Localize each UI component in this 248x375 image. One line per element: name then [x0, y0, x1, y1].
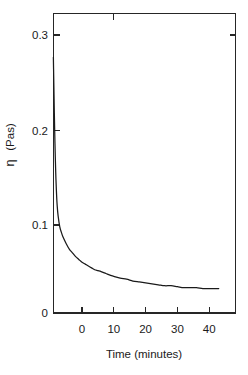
x-tick-label-40: 40 — [203, 323, 216, 335]
x-tick-label-10: 10 — [107, 323, 120, 335]
chart-background — [0, 0, 248, 375]
y-tick-label-0-2: 0.2 — [32, 125, 48, 137]
viscosity-decay-line-chart: 0 0.1 0.2 0.3 0 10 20 30 40 Time (minute… — [0, 0, 248, 375]
x-axis-title: Time (minutes) — [106, 348, 182, 360]
chart-figure: 0 0.1 0.2 0.3 0 10 20 30 40 Time (minute… — [0, 0, 248, 375]
x-tick-label-30: 30 — [171, 323, 184, 335]
x-tick-label-20: 20 — [139, 323, 152, 335]
y-axis-title: η (Pas) — [3, 123, 17, 166]
y-tick-label-0: 0 — [42, 307, 48, 319]
y-axis-title-symbol: η — [3, 159, 17, 166]
y-tick-label-0-3: 0.3 — [32, 29, 48, 41]
x-tick-label-0: 0 — [79, 323, 85, 335]
y-tick-label-0-1: 0.1 — [32, 219, 48, 231]
y-axis-title-units: (Pas) — [4, 123, 16, 151]
